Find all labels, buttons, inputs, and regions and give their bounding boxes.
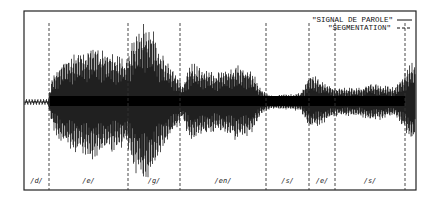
speech-waveform: [25, 24, 415, 177]
segment-label: /d/: [30, 177, 43, 185]
waveform-core-band: [50, 96, 405, 106]
speech-signal-chart: /d//e//g//en//s//e//s/ "SIGNAL DE PAROLE…: [0, 0, 441, 202]
segment-label: /en/: [215, 177, 232, 185]
segment-label: /s/: [281, 177, 294, 185]
segment-labels: /d//e//g//en//s//e//s/: [30, 177, 376, 185]
legend-signal-label: "SIGNAL DE PAROLE": [312, 16, 393, 24]
legend-segmentation-label: "SEGMENTATION": [328, 24, 391, 32]
segment-label: /g/: [148, 177, 161, 185]
segment-label: /s/: [364, 177, 377, 185]
legend: "SIGNAL DE PAROLE" "SEGMENTATION": [312, 16, 412, 32]
segment-label: /e/: [82, 177, 95, 185]
segment-label: /e/: [316, 177, 329, 185]
